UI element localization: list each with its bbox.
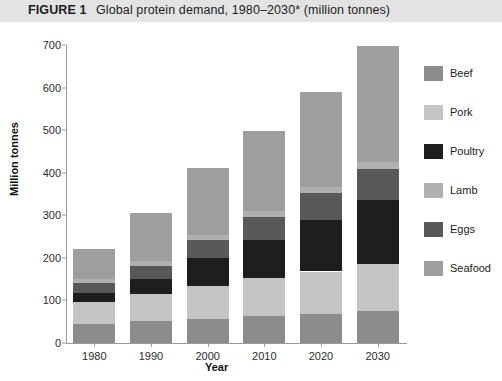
legend-swatch-pork (424, 105, 443, 120)
bar-group[interactable] (357, 46, 399, 343)
bar-segment-lamb[interactable] (187, 235, 229, 240)
plot-area: 0100200300400500600700 (66, 45, 406, 343)
x-tick-mark (378, 343, 379, 347)
bar-segment-seafood[interactable] (187, 168, 229, 235)
legend-item-eggs[interactable]: Eggs (424, 222, 502, 261)
bar-segment-seafood[interactable] (300, 92, 342, 187)
y-tick-label: 0 (55, 337, 61, 349)
chart-legend: BeefPorkPoultryLambEggsSeafood (424, 66, 502, 300)
figure-title-text: Global protein demand, 1980–2030* (milli… (96, 3, 390, 17)
y-tick-mark (62, 87, 66, 88)
legend-label: Poultry (450, 144, 484, 159)
y-tick-label: 700 (43, 39, 61, 51)
bar-segment-beef[interactable] (243, 316, 285, 343)
y-tick-mark (62, 257, 66, 258)
y-tick-mark (62, 300, 66, 301)
bar-segment-seafood[interactable] (243, 131, 285, 211)
bar-segment-lamb[interactable] (300, 187, 342, 193)
legend-label: Beef (450, 66, 473, 81)
bar-segment-poultry[interactable] (130, 279, 172, 294)
bar-segment-lamb[interactable] (357, 162, 399, 169)
x-tick-mark (151, 343, 152, 347)
legend-label: Eggs (450, 222, 475, 237)
bar-segment-eggs[interactable] (243, 217, 285, 239)
legend-item-poultry[interactable]: Poultry (424, 144, 502, 183)
bar-group[interactable] (130, 213, 172, 343)
bar-segment-poultry[interactable] (73, 293, 115, 302)
bar-group[interactable] (187, 168, 229, 343)
bar-segment-seafood[interactable] (130, 213, 172, 261)
x-axis-label: Year (205, 361, 228, 373)
bar-segment-lamb[interactable] (243, 211, 285, 217)
legend-item-beef[interactable]: Beef (424, 66, 502, 105)
y-tick-label: 400 (43, 167, 61, 179)
bar-group[interactable] (73, 249, 115, 344)
x-axis-line (66, 343, 407, 344)
bar-segment-beef[interactable] (300, 314, 342, 343)
bar-segment-poultry[interactable] (187, 258, 229, 286)
bar-segment-seafood[interactable] (357, 46, 399, 162)
legend-item-pork[interactable]: Pork (424, 105, 502, 144)
legend-item-seafood[interactable]: Seafood (424, 261, 502, 300)
x-tick-label: 2010 (234, 350, 294, 362)
bar-segment-pork[interactable] (73, 302, 115, 324)
y-tick-label: 600 (43, 82, 61, 94)
bar-segment-lamb[interactable] (73, 279, 115, 282)
bar-segment-beef[interactable] (357, 311, 399, 343)
bar-segment-eggs[interactable] (130, 266, 172, 280)
y-tick-mark (62, 215, 66, 216)
legend-swatch-poultry (424, 144, 443, 159)
bar-segment-beef[interactable] (130, 321, 172, 343)
legend-swatch-eggs (424, 222, 443, 237)
bar-segment-poultry[interactable] (243, 240, 285, 278)
bar-segment-poultry[interactable] (357, 200, 399, 264)
bar-segment-lamb[interactable] (130, 261, 172, 265)
bar-segment-pork[interactable] (357, 264, 399, 311)
figure-title: FIGURE 1 Global protein demand, 1980–203… (28, 3, 390, 17)
bar-segment-eggs[interactable] (73, 283, 115, 294)
bar-segment-pork[interactable] (300, 272, 342, 315)
bar-segment-beef[interactable] (187, 319, 229, 343)
y-tick-label: 500 (43, 124, 61, 136)
bar-group[interactable] (300, 92, 342, 343)
y-tick-label: 100 (43, 294, 61, 306)
figure-container: FIGURE 1 Global protein demand, 1980–203… (0, 0, 502, 381)
x-tick-label: 2030 (348, 350, 408, 362)
legend-swatch-lamb (424, 183, 443, 198)
y-tick-mark (62, 45, 66, 46)
legend-label: Pork (450, 105, 473, 120)
y-tick-label: 200 (43, 252, 61, 264)
bar-segment-pork[interactable] (130, 294, 172, 321)
x-tick-label: 2020 (291, 350, 351, 362)
x-tick-mark (94, 343, 95, 347)
bar-segment-pork[interactable] (187, 286, 229, 319)
x-tick-label: 1980 (64, 350, 124, 362)
x-tick-mark (208, 343, 209, 347)
legend-swatch-beef (424, 66, 443, 81)
bar-segment-seafood[interactable] (73, 249, 115, 280)
x-tick-mark (321, 343, 322, 347)
bar-group[interactable] (243, 131, 285, 343)
bar-segment-eggs[interactable] (187, 240, 229, 258)
bar-segment-poultry[interactable] (300, 220, 342, 272)
x-tick-label: 1990 (121, 350, 181, 362)
figure-number: FIGURE 1 (28, 3, 86, 17)
bar-segment-eggs[interactable] (300, 193, 342, 219)
y-axis-label: Million tonnes (8, 122, 20, 196)
legend-swatch-seafood (424, 261, 443, 276)
y-tick-mark (62, 343, 66, 344)
y-tick-label: 300 (43, 209, 61, 221)
legend-item-lamb[interactable]: Lamb (424, 183, 502, 222)
legend-label: Lamb (450, 183, 478, 198)
x-tick-label: 2000 (178, 350, 238, 362)
y-tick-mark (62, 130, 66, 131)
y-tick-mark (62, 172, 66, 173)
bar-segment-eggs[interactable] (357, 169, 399, 200)
bar-segment-pork[interactable] (243, 278, 285, 316)
x-tick-mark (264, 343, 265, 347)
bar-segment-beef[interactable] (73, 324, 115, 343)
legend-label: Seafood (450, 261, 491, 276)
